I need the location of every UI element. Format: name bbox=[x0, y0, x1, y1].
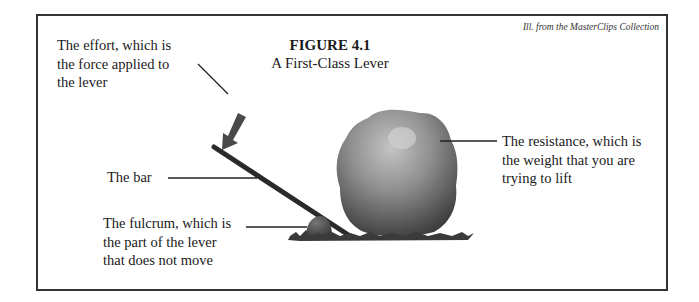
effort-arrow-icon bbox=[222, 113, 246, 150]
effort-pointer-line bbox=[198, 64, 228, 94]
bar-label: The bar bbox=[107, 168, 152, 187]
fulcrum-label: The fulcrum, which is the part of the le… bbox=[103, 214, 231, 270]
resistance-label: The resistance, which is the weight that… bbox=[502, 132, 641, 188]
effort-label: The effort, which is the force applied t… bbox=[57, 36, 171, 92]
lever-bar bbox=[214, 147, 350, 236]
